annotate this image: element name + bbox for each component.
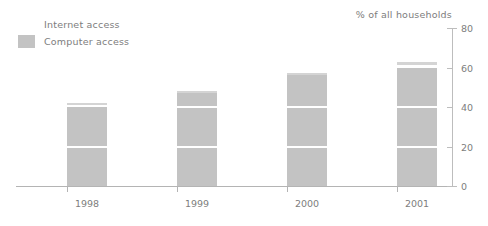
y-tick-0 <box>447 186 453 187</box>
bar-gridline-2001-40 <box>397 106 437 108</box>
y-tick-80 <box>447 28 453 29</box>
y-tick-label-40: 40 <box>461 102 473 113</box>
bar-computer-access-2000 <box>287 75 327 186</box>
bar-internet-access-1998 <box>67 103 107 105</box>
bar-gridline-2001-20 <box>397 146 437 148</box>
x-axis-label-1999: 1999 <box>167 198 227 209</box>
bar-computer-access-2001 <box>397 68 437 187</box>
bar-gridline-1998-20 <box>67 146 107 148</box>
bar-internet-access-1999 <box>177 91 217 93</box>
bar-internet-access-2001 <box>397 62 437 66</box>
y-tick-60 <box>447 68 453 69</box>
y-tick-20 <box>447 147 453 148</box>
plot-area: 806040200 1998199920002001 <box>0 0 488 226</box>
x-tick-1998 <box>67 187 68 192</box>
x-tick-2001 <box>397 187 398 192</box>
x-tick-2000 <box>287 187 288 192</box>
bar-gridline-1999-40 <box>177 106 217 108</box>
x-axis-label-1998: 1998 <box>57 198 117 209</box>
y-tick-label-60: 60 <box>461 62 473 73</box>
y-tick-label-20: 20 <box>461 141 473 152</box>
y-tick-label-0: 0 <box>461 181 467 192</box>
x-axis-label-2001: 2001 <box>387 198 447 209</box>
bar-internet-access-2000 <box>287 73 327 75</box>
bar-gridline-2000-20 <box>287 146 327 148</box>
x-axis-line <box>16 186 448 187</box>
x-tick-1999 <box>177 187 178 192</box>
y-tick-40 <box>447 107 453 108</box>
bar-gridline-2000-40 <box>287 106 327 108</box>
chart-container: Internet access Computer access % of all… <box>0 0 488 226</box>
y-tick-label-80: 80 <box>461 23 473 34</box>
bar-gridline-1999-20 <box>177 146 217 148</box>
x-axis-label-2000: 2000 <box>277 198 337 209</box>
